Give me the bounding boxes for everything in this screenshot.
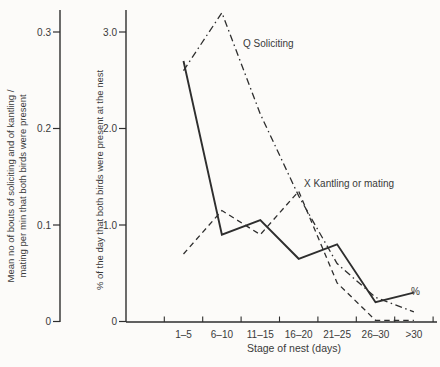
percent-axis-tick-label: 1.0 [103, 220, 117, 231]
series-label-soliciting: Q Soliciting [243, 38, 294, 49]
left-axis-title-line1: Mean no of bouts of soliciting and of ka… [5, 89, 16, 282]
x-category-label: 16–20 [285, 329, 313, 340]
percent-axis-title: % of the day that both birds were presen… [94, 70, 105, 291]
line-soliciting [184, 13, 414, 312]
x-category-label: 1–5 [175, 329, 192, 340]
left-axis-title-line2: mating per min that both birds were pres… [17, 94, 28, 278]
behaviour-chart-figure: 0.33.00.22.00.11.0001–56–1011–1516–2021–… [0, 0, 440, 367]
x-category-label: 26–30 [362, 329, 390, 340]
left-axis-tick-label: 0.1 [37, 220, 51, 231]
x-category-label: 6–10 [211, 329, 234, 340]
series-label-percent-day-present: % [411, 286, 420, 297]
x-category-label: 21–25 [323, 329, 351, 340]
series-label-kantling-mating: X Kantling or mating [304, 178, 394, 189]
percent-axis-tick-label: 0 [111, 316, 117, 327]
x-category-label: >30 [405, 329, 422, 340]
x-axis-title: Stage of nest (days) [247, 342, 341, 354]
left-axis-tick-label: 0 [45, 316, 51, 327]
x-category-label: 11–15 [247, 329, 275, 340]
left-axis-tick-label: 0.2 [37, 123, 51, 134]
percent-axis-tick-label: 3.0 [103, 27, 117, 38]
left-axis-tick-label: 0.3 [37, 27, 51, 38]
chart-canvas: 0.33.00.22.00.11.0001–56–1011–1516–2021–… [0, 0, 440, 367]
percent-axis-tick-label: 2.0 [103, 123, 117, 134]
